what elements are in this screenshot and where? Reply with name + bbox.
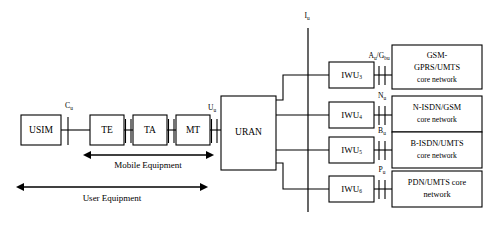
iwu6-label: IWU6 <box>341 184 362 194</box>
ta-label: TA <box>144 125 156 135</box>
network-4-line-2: network <box>423 190 451 199</box>
mobile-equipment-label: Mobile Equipment <box>114 160 182 170</box>
user-equipment-label: User Equipment <box>83 193 142 203</box>
network-architecture-diagram: USIM Cu TE TA MT <box>0 0 503 227</box>
branch-4: IWU6 Pu PDN/UMTS core network <box>276 163 482 207</box>
iwu5-label: IWU5 <box>341 145 362 155</box>
iu-interface-label: Iu <box>304 11 310 21</box>
nu-interface-label: Nu <box>378 91 386 101</box>
network-1-line-1: GSM- <box>427 51 448 60</box>
network-2-line-2: core network <box>417 115 457 124</box>
network-1-line-3: core network <box>417 75 457 84</box>
node-usim: USIM <box>21 115 61 145</box>
network-3-line-1: B-ISDN/UMTS <box>410 139 463 148</box>
mt-label: MT <box>186 125 200 135</box>
node-ta: TA <box>133 115 167 145</box>
uu-interface-label: Uu <box>208 103 216 113</box>
node-mt: MT <box>176 115 210 145</box>
cu-interface-label: Cu <box>65 101 73 111</box>
network-2-line-1: N-ISDN/GSM <box>413 103 462 112</box>
iwu3-label: IWU3 <box>341 70 362 80</box>
network-box-2 <box>392 96 482 132</box>
network-box-3 <box>392 132 482 168</box>
node-uran: URAN <box>221 96 276 170</box>
pu-interface-label: Pu <box>379 165 386 175</box>
wire-uran-iwu6 <box>276 163 329 189</box>
branch-3: IWU5 Bu B-ISDN/UMTS core network <box>276 126 482 168</box>
network-1-line-2: GPRS/UMTS <box>414 63 460 72</box>
node-te: TE <box>90 115 124 145</box>
span-user-equipment: User Equipment <box>24 187 200 203</box>
iwu4-label: IWU4 <box>341 110 362 120</box>
network-4-line-1: PDN/UMTS core <box>408 178 467 187</box>
te-label: TE <box>101 125 113 135</box>
network-3-line-2: core network <box>417 151 457 160</box>
uran-label: URAN <box>235 127 262 137</box>
network-box-4 <box>392 171 482 207</box>
wire-uran-iwu3 <box>276 75 329 100</box>
span-mobile-equipment: Mobile Equipment <box>91 155 206 170</box>
diagram-canvas: USIM Cu TE TA MT <box>0 0 503 227</box>
usim-label: USIM <box>29 125 53 135</box>
au-gbu-interface-label: Au/Gbu <box>368 51 389 61</box>
bu-interface-label: Bu <box>378 126 386 136</box>
